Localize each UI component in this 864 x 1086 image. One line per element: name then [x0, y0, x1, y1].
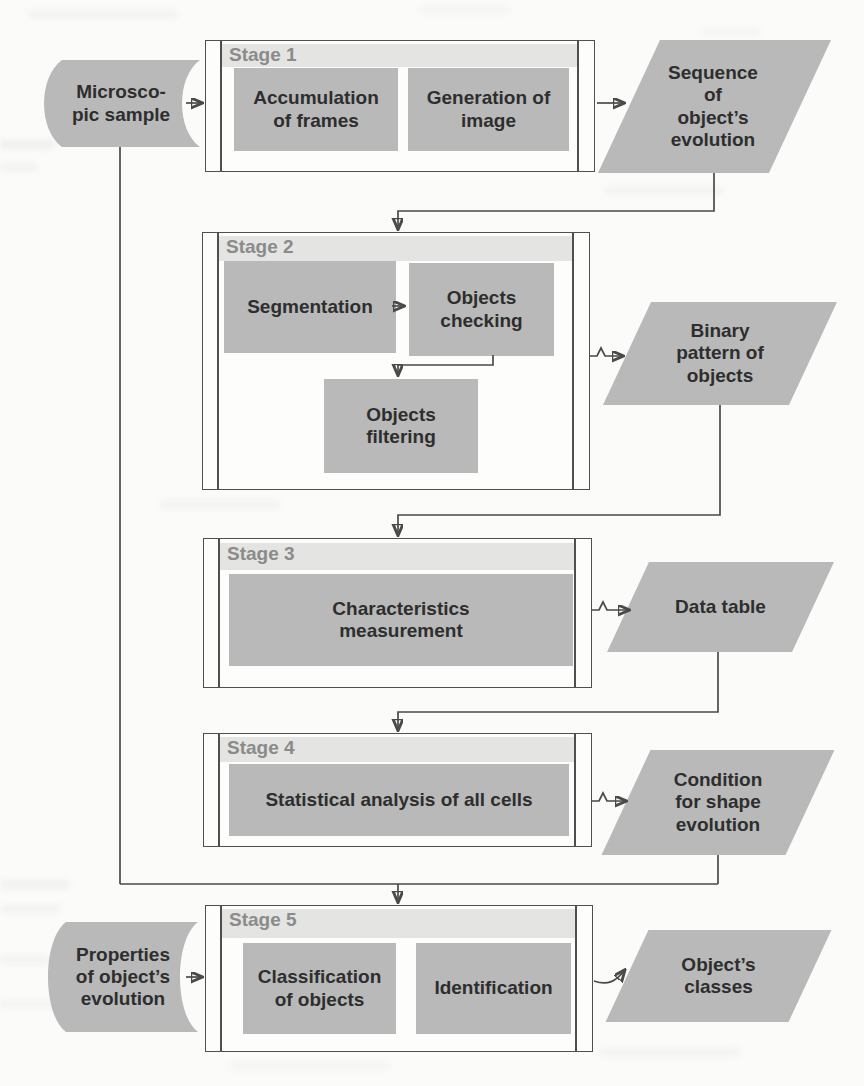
microscopic-sample-text: Microsco- pic sample	[48, 60, 194, 147]
stage5-box: Stage 5 Classification of objects Identi…	[205, 905, 593, 1052]
arrow-stage4-to-condition	[592, 793, 625, 801]
stage1-right-bar	[577, 41, 579, 171]
bleed-artifact	[420, 6, 510, 14]
stage3-label: Stage 3	[227, 543, 295, 565]
stage1-label: Stage 1	[229, 44, 297, 66]
node-generation-of-image: Generation of image	[408, 68, 569, 151]
node-classification-of-objects: Classification of objects	[243, 943, 396, 1034]
objects-classes-text: Object’s classes	[627, 930, 810, 1022]
arrow-stage5-to-classes	[594, 971, 624, 983]
bleed-artifact	[160, 500, 280, 509]
binary-pattern-text: Binary pattern of objects	[627, 302, 813, 405]
stage5-right-bar	[575, 906, 577, 1051]
node-characteristics-measurement: Characteristics measurement	[229, 574, 573, 666]
stage2-box: Stage 2 Segmentation Objects checking Ob…	[202, 232, 590, 490]
sequence-text: Sequence of object’s evolution	[620, 40, 806, 173]
node-segmentation: Segmentation	[224, 261, 396, 353]
stage2-left-bar	[217, 233, 219, 489]
stage3-right-bar	[574, 539, 576, 687]
stage2-header-band: Stage 2	[219, 236, 572, 261]
bleed-artifact	[0, 163, 38, 171]
node-objects-checking: Objects checking	[409, 263, 554, 356]
stage2-label: Stage 2	[226, 236, 294, 258]
bleed-artifact	[604, 186, 724, 195]
node-accumulation-of-frames: Accumulation of frames	[234, 68, 398, 151]
arrow-stage2-to-binary	[590, 348, 622, 356]
properties-text: Properties of object’s evolution	[50, 922, 196, 1032]
data-table-text: Data table	[628, 562, 813, 652]
stage1-box: Stage 1 Accumulation of frames Generatio…	[205, 40, 595, 172]
arrow-stage3-to-datatable	[592, 602, 628, 610]
bleed-artifact	[700, 28, 760, 36]
stage1-header-band: Stage 1	[222, 44, 577, 67]
node-statistical-analysis: Statistical analysis of all cells	[229, 764, 569, 836]
stage5-label: Stage 5	[229, 909, 297, 931]
stage3-header-band: Stage 3	[220, 543, 574, 570]
node-identification: Identification	[416, 943, 571, 1034]
bleed-artifact	[230, 1062, 390, 1070]
bleed-artifact	[0, 880, 70, 889]
bleed-artifact	[28, 10, 178, 19]
stage4-right-bar	[574, 734, 576, 846]
stage4-box: Stage 4 Statistical analysis of all cell…	[203, 733, 592, 847]
flowchart-figure: Stage 1 Accumulation of frames Generatio…	[0, 0, 864, 1086]
stage3-box: Stage 3 Characteristics measurement	[203, 538, 592, 688]
arrow-sequence-to-stage2	[398, 173, 714, 228]
node-objects-filtering: Objects filtering	[324, 379, 478, 473]
bleed-artifact	[600, 1048, 740, 1057]
stage4-header-band: Stage 4	[220, 737, 574, 762]
stage5-header-band: Stage 5	[222, 909, 575, 938]
stage4-label: Stage 4	[227, 737, 295, 759]
bleed-artifact	[0, 905, 60, 913]
condition-text: Condition for shape evolution	[626, 750, 810, 855]
stage2-right-bar	[572, 233, 574, 489]
